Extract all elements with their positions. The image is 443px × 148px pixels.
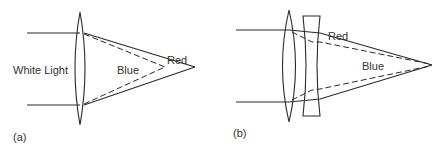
red-ray-bottom (84, 67, 195, 105)
blue-label-a: Blue (117, 64, 139, 76)
caption-a: (a) (13, 131, 26, 143)
blue-ray-top (84, 34, 165, 67)
biconvex-lens-b (283, 10, 296, 122)
plano-concave-lens (303, 16, 320, 116)
white-light-label: White Light (13, 64, 68, 76)
biconvex-lens (75, 12, 85, 125)
red-label-b: Red (328, 30, 348, 42)
caption-b: (b) (233, 127, 246, 139)
blue-ray-top-b (292, 32, 430, 64)
red-label-a: Red (167, 54, 187, 66)
diagram-canvas: White Light Blue Red (a) Red Blue (b) (0, 0, 443, 148)
panel-b: Red Blue (b) (233, 10, 432, 139)
blue-ray-bottom-b (292, 66, 430, 100)
panel-a: White Light Blue Red (a) (13, 12, 195, 143)
blue-label-b: Blue (362, 60, 384, 72)
